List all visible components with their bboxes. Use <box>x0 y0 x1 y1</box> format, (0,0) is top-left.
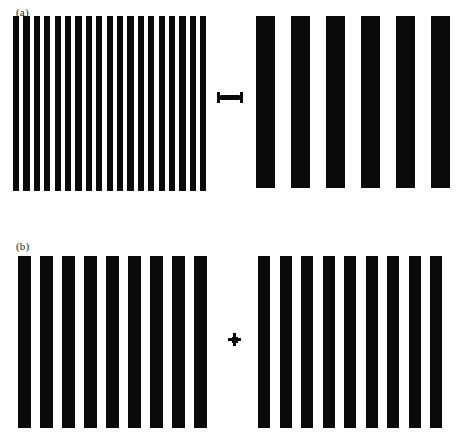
grating-bar <box>55 16 61 191</box>
grating-bar <box>169 16 175 191</box>
grating-bar <box>396 16 415 188</box>
stimulus-figure: (a) (b) <box>0 0 460 440</box>
grating-bar <box>280 256 292 428</box>
cross-center-square <box>232 337 238 343</box>
grating-bar <box>65 16 71 191</box>
grating-bar <box>148 16 154 191</box>
dumbbell-right-cap <box>240 92 243 103</box>
dumbbell-marker-icon <box>217 92 243 103</box>
dumbbell-shaft <box>220 95 240 100</box>
grating-bar <box>190 16 196 191</box>
grating-bar <box>323 256 335 428</box>
grating-bar <box>75 16 81 191</box>
grating-bar <box>138 16 144 191</box>
grating-bar <box>366 256 378 428</box>
grating-bar <box>200 16 206 191</box>
grating-bar <box>361 16 380 188</box>
grating-bar <box>179 16 185 191</box>
grating-bar <box>256 16 275 188</box>
panel-b-label: (b) <box>16 240 29 252</box>
grating-bar <box>107 16 113 191</box>
grating-bar <box>34 16 40 191</box>
grating-bar <box>128 256 141 428</box>
grating-bar <box>172 256 185 428</box>
grating-bar <box>194 256 207 428</box>
cross-marker-icon <box>228 333 241 346</box>
grating-bar <box>23 16 29 191</box>
grating-bar <box>18 256 31 428</box>
grating-bar <box>150 256 163 428</box>
grating-bar <box>13 16 19 191</box>
grating-bar <box>301 256 313 428</box>
grating-bar <box>291 16 310 188</box>
grating-bar <box>431 16 450 188</box>
grating-bar <box>430 256 442 428</box>
grating-bar <box>159 16 165 191</box>
grating-bar <box>117 16 123 191</box>
grating-bar <box>62 256 75 428</box>
grating-bar <box>326 16 345 188</box>
grating-bar <box>86 16 92 191</box>
grating-bar <box>106 256 119 428</box>
grating-bar <box>84 256 97 428</box>
grating-bar <box>258 256 270 428</box>
grating-bar <box>409 256 421 428</box>
grating-bar <box>40 256 53 428</box>
grating-bar <box>387 256 399 428</box>
grating-bar <box>344 256 356 428</box>
panel-a-right-grating <box>256 16 449 188</box>
panel-b-right-grating <box>258 256 448 428</box>
panel-a-left-grating <box>13 16 210 191</box>
grating-bar <box>96 16 102 191</box>
panel-b-left-grating <box>18 256 208 428</box>
grating-bar <box>127 16 133 191</box>
grating-bar <box>44 16 50 191</box>
